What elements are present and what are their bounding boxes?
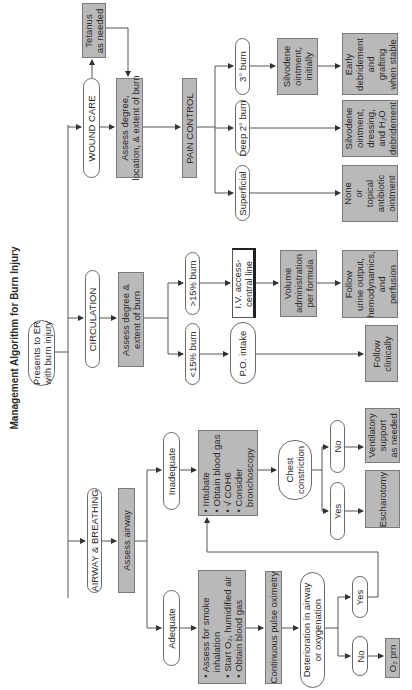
- over-15-percent-node: >15% burn: [185, 252, 200, 315]
- pain-control-box: PAIN CONTROL: [182, 78, 197, 178]
- circulation-node: CIRCULATION: [85, 270, 100, 368]
- o2-prn-box: O₂ prn: [385, 638, 400, 678]
- intubate-actions-box: • Intubate • Obtain blood gas • √ COH6 •…: [198, 430, 258, 516]
- silvodene-initial-box: Silvodene ointment, initially: [277, 38, 318, 95]
- escharotomy-box: Escharotomy: [365, 470, 400, 528]
- assess-airway-box: Assess airway: [118, 488, 135, 593]
- deterioration-no-node: No: [352, 636, 368, 676]
- start-node: Presents to ER with burn injury: [28, 320, 55, 386]
- smoke-actions-list: • Assess for smoke inhalation • Start O₂…: [200, 576, 244, 678]
- volume-administration-box: Volume administration per formula: [280, 250, 317, 317]
- topical-antibiotic-box: None or topical antibiotic ointment: [342, 165, 398, 222]
- airway-breathing-node: AIRWAY & BREATHING: [87, 488, 102, 593]
- deterioration-node: Deterioration in airway or oxygenation: [300, 572, 325, 688]
- pulse-oximetry-box: Continuous pulse oximetry: [265, 571, 282, 684]
- adequate-node: Adequate: [163, 590, 180, 666]
- intubate-actions-list: • Intubate • Obtain blood gas • √ COH6 •…: [201, 434, 256, 512]
- tetanus-box: Tetanus as needed: [82, 3, 106, 58]
- assess-wound-box: Assess degree, location, & extent of bur…: [116, 78, 143, 178]
- assess-extent-box: Assess degree & extent of burn: [118, 272, 144, 367]
- under-15-percent-node: <15% burn: [185, 323, 200, 385]
- silvodene-dressing-box: Silvodene ointment, dressing, and H₂O de…: [342, 100, 398, 157]
- superficial-burn-node: Superficial: [235, 165, 250, 221]
- follow-clinically-box: Follow clinically: [365, 325, 398, 382]
- follow-urine-output-box: Follow urine output, hemodynamics, and p…: [342, 250, 398, 318]
- ventilatory-support-box: Ventilatory support as needed: [365, 408, 400, 463]
- third-degree-burn-node: 3° burn: [235, 38, 250, 95]
- iv-access-box: I.V. access- central line: [232, 248, 256, 318]
- chest-constriction-node: Chest constriction: [278, 440, 312, 500]
- smoke-inhalation-box: • Assess for smoke inhalation • Start O₂…: [198, 570, 246, 684]
- inadequate-node: Inadequate: [163, 432, 180, 510]
- wound-care-node: WOUND CARE: [83, 78, 100, 178]
- deterioration-yes-node: Yes: [352, 576, 368, 618]
- chest-yes-node: Yes: [330, 482, 345, 540]
- chest-no-node: No: [330, 420, 345, 473]
- early-debridement-box: Early debridement and grafting when stab…: [342, 33, 398, 95]
- po-intake-node: P.O. intake: [230, 322, 256, 384]
- deep-second-degree-burn-node: Deep 2° burn: [235, 100, 250, 156]
